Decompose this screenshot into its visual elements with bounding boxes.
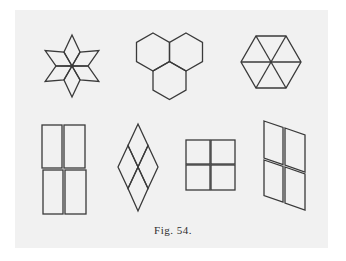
figure-drawing [0, 0, 346, 261]
four-tall-rectangles [42, 125, 86, 214]
figure-caption: Fig. 54. [0, 224, 346, 236]
four-squares [186, 140, 235, 190]
three-hexagon-cluster [137, 33, 203, 100]
hexagon-six-triangles [241, 36, 301, 88]
four-rhombus-diamond [118, 124, 158, 211]
six-rhombus-star [41, 35, 103, 97]
four-parallelograms [264, 121, 305, 210]
